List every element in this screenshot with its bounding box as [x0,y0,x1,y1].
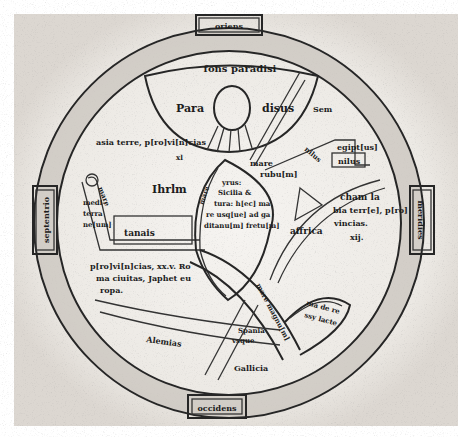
paradise-left-label: Para [176,102,204,115]
mediterranean-text-2: terra [83,209,103,218]
north-label: septentrio [41,196,51,243]
hispania-label-1: Spania [238,326,265,335]
center-island-line-1: yrus: [221,178,241,187]
center-island-line-2: Sicilia & [218,188,252,197]
cham-label-1: cham la [340,192,380,202]
center-island-line-4: re usq[ue] ad ga [206,210,271,219]
jerusalem-label: Ihrlm [152,183,187,196]
europa-label-1: p[ro]vi[n]cias, xx.v. Ro [90,261,191,271]
nilus-box-label: nilus [338,156,361,166]
mare-rubrum-label-1: mare [250,158,273,168]
sem-label: Sem [313,104,333,114]
tanais-label: tanais [124,228,155,238]
egipt-label: egipt[us] [337,142,378,152]
asia-label: asia terre, p[ro]vi[n]cias [96,137,206,147]
gallicia-label: Gallicia [234,363,268,373]
center-island-line-3: tura: h[ec] ma [214,199,271,208]
cham-label-3: vincias. [333,218,368,228]
mediterranean-text-1: medi- [83,198,105,207]
europa-label-2: ma ciuitas, Japhet eu [96,273,191,283]
t-o-world-map: oriens occidens septentrio meridies fons… [0,0,458,437]
asia-count-label: xl [176,153,183,162]
paradise-right-label: disus [262,102,294,115]
hispania-label-2: vsque [231,336,255,345]
center-island-line-5: ditanu[m] fretu[m] [204,221,279,230]
mediterranean-text-3: ne[um] [83,220,112,229]
europa-label-3: ropa. [100,285,123,295]
fons-paradisi-label: fons paradisi [204,63,277,74]
east-label: oriens [215,21,243,31]
south-label: meridies [416,200,426,240]
west-label: occidens [197,403,237,413]
mare-rubrum-label-2: rubu[m] [260,169,297,179]
africa-label: affrica [290,226,323,236]
cham-label-2: bia terr[e], p[ro] [333,205,408,215]
cham-label-4: xij. [350,232,364,242]
